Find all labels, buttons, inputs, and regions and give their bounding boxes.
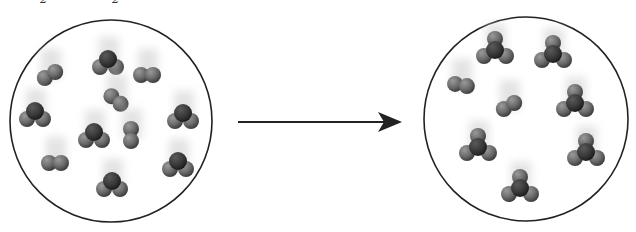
- reaction-diagram: [0, 0, 636, 232]
- atom: [566, 94, 584, 112]
- atom: [511, 179, 529, 197]
- atom: [469, 138, 487, 156]
- atom: [85, 123, 103, 141]
- atom: [169, 152, 187, 170]
- reactants-container: [10, 20, 212, 222]
- products-container: [424, 17, 628, 221]
- atom: [99, 50, 117, 68]
- atom: [174, 104, 192, 122]
- atom: [145, 67, 161, 83]
- atom: [506, 95, 522, 111]
- atom: [486, 41, 504, 59]
- atom: [26, 102, 44, 120]
- atom: [47, 64, 63, 80]
- atom: [577, 143, 595, 161]
- atom: [544, 45, 562, 63]
- atom: [53, 155, 69, 171]
- atom: [459, 78, 475, 94]
- atom: [123, 133, 139, 149]
- atom: [103, 172, 121, 190]
